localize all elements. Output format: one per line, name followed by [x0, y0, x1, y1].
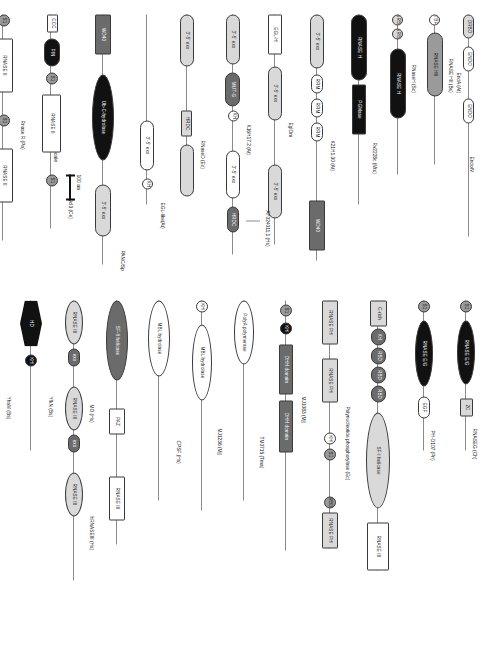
domain-rrm-3: RRM: [311, 122, 323, 141]
row-name-rnasehii: RNASE HII (Bs): [448, 58, 453, 92]
domain-rnase-ii-rnaser-1: RNASE II: [0, 38, 13, 92]
domain-35exo-k16-2: 3'-5' exo: [226, 150, 240, 198]
lane-mj1083: S1 KH DHH domain DHH domain MJ1083 (Mj): [276, 300, 296, 600]
domain-35exo-egl: 3'-5' exo: [140, 120, 154, 170]
row-name-k16h172: K16H17.2 (At): [246, 124, 251, 154]
domain-rbd-2: RBD: [371, 366, 386, 383]
domain-rnase-ii-dcl3: RNASE II: [42, 94, 61, 152]
domain-egf: EGF: [418, 396, 430, 418]
lane-rnaseg-ch: S1 RNASE E/G 2C RNASEG (Ch): [456, 300, 476, 530]
domain-rbd-3: RBD: [371, 385, 386, 402]
domain-polya-polymerase-tm: PolyA polymerase: [234, 300, 254, 364]
row-name-cpsf: CPSF (Hs): [176, 440, 181, 463]
row-name-rnaseg: RNASEG (Ch): [472, 428, 477, 459]
domain-s1-dcl3-2: S1: [46, 174, 58, 186]
domain-35exo-k21: 3'-5' exo: [310, 14, 324, 68]
row-name-tm0715: TM0715 (Tma): [259, 436, 264, 468]
row-name-rv2228c: Rv2228c (Mtu): [372, 142, 377, 173]
lane-k16h172: 3'-5' exo MUT-G KH 3'-5' exo HRDC K16H17…: [224, 14, 242, 264]
domain-mbl-hydrolase: MBL hydrolase: [192, 324, 212, 400]
domain-2c: 2C: [460, 398, 473, 416]
domain-rbd-pnpase: RBD: [324, 496, 336, 508]
domain-pin: PIN: [44, 38, 60, 66]
lane-mj1236: KH MBL hydrolase MJ1236 (Mj): [192, 300, 212, 600]
domain-kh-yfkn: KH: [25, 354, 37, 366]
row-name-panc: PANC/Sp: [120, 250, 125, 270]
domain-rnase-h: RNASE H: [390, 48, 406, 118]
lane-panc-sp: WD40 Ub-C-hydrolase 3'-5' exo PANC/Sp: [92, 14, 114, 294]
domain-wd40-panc: WD40: [95, 14, 111, 54]
row-name-pnpase: Polynucleotide phosphorylase (Ec): [345, 406, 350, 480]
domain-kh-mj1083: KH: [280, 322, 292, 334]
domain-s1-mj1083: S1: [280, 304, 292, 316]
domain-rnase-eg-pn: RNASE E/G: [415, 320, 433, 386]
lane-pnpase-ec: RNASE PH RNASE PH KH S1 RBD RNASE PH Pol…: [320, 300, 340, 600]
domain-mbl-hydrolase-cpsf: MBL hydrolase: [148, 300, 170, 376]
domain-c-rich: C-rich: [370, 300, 387, 326]
scale-bar-value: 100 aa: [76, 174, 82, 189]
domain-kh-egl: KH: [142, 178, 153, 189]
domain-ccc: CCC: [47, 14, 58, 32]
domain-kh-mj1236: KH: [196, 300, 208, 312]
domain-dsrbd-1: dsRBD: [393, 14, 404, 25]
domain-s1-dcl3-1: S1: [46, 72, 58, 84]
row-name-yfkn: YfkN (Bs): [48, 396, 53, 417]
domain-rnase-h-2: RNASE H: [351, 14, 367, 80]
lane-rnase-hii-bs: TBP RNASE HII RNASE HII (Bs): [427, 14, 443, 244]
domain-exo-mo-1: exo: [68, 348, 80, 366]
domain-rnaseiii-mo-3: RNASE III: [65, 472, 83, 516]
row-name-rnased: RNaseD (Ec): [200, 140, 205, 168]
lane-tm0715: PolyA polymerase TM0715 (Tma): [234, 300, 254, 600]
row-name-mj1236: MJ1236 (Mj): [217, 428, 222, 455]
scale-bar-line: [69, 174, 71, 200]
scale-bar-cap-left: [66, 174, 75, 176]
domain-rnase-ph-2: RNASE PH: [322, 358, 338, 402]
domain-exo-mo-2: exo: [68, 434, 80, 452]
lane-hrnaseiii: SF-II helicase PAZ RNASE III: [106, 300, 128, 600]
domain-35exo-eg-1: 3'-5' exo: [268, 66, 282, 120]
domain-rnase-hii: RNASE HII: [427, 32, 443, 96]
row-label-enda: EndoIV: [469, 156, 474, 172]
domain-rbd-1: RBD: [371, 347, 386, 364]
lane-phd107-pn: S1 RNASE E/G EGF PH-D107 (Pn): [414, 300, 434, 530]
lane-k21h130: 3'-5' exo RRM RRM RRM WD40 K21H1.30 (At): [308, 14, 326, 264]
domain-tbp: TBP: [430, 14, 441, 25]
domain-rnase-ph-1: RNASE PH: [322, 300, 338, 344]
domain-hd-yfkn: HD: [20, 300, 42, 346]
row-name-enda: EndA (At): [456, 72, 461, 93]
lane-cpsf-hs: MBL hydrolase CPSF (Hs): [148, 300, 170, 600]
row-name-k21h130: K21H1.30 (At): [330, 140, 335, 170]
domain-dsrbd-2: dsRBD: [393, 28, 404, 39]
row-name-rnaseh-sc: RNaseH (Sc): [411, 64, 416, 92]
domain-rnaseiii-mo-1: RNASE III: [65, 300, 83, 344]
domain-endo-1: ENDO: [464, 46, 475, 71]
domain-sfi-helicase: SF-I helicase: [366, 412, 390, 508]
domain-mut-g: MUT-G: [226, 72, 241, 106]
domain-35exo-eg-2: 3'-5' exo: [268, 164, 282, 218]
lane-rnaser-pa: S1 RNASE II S1 RNASE II Rnase R (Pa): [0, 14, 14, 294]
domain-kh-pnpase: KH: [324, 432, 336, 444]
domain-sfii-helicase: SF-II helicase: [106, 300, 128, 380]
domain-35exo-rnased-2: [180, 144, 194, 196]
domain-s1-rnaser-2: S1: [0, 114, 10, 126]
lane-rv2228c: RNASE H PGMase Rv2228c (Mtu): [350, 14, 368, 244]
domain-s1-phd107: S1: [418, 300, 430, 312]
lane-rnased-ec: 3'-5' exo HRDC RNaseD (Ec): [178, 14, 196, 264]
figure-page: Scale 100 aa DRBD ENDO ENDO EndoIV EndA …: [0, 0, 486, 657]
lane-mo-hs: RNASE III exo RNASE III exo RNASE III MO…: [64, 300, 84, 620]
domain-dhh-2: DHH domain: [279, 400, 293, 452]
domain-kh-k16: KH: [228, 110, 239, 121]
row-name-phd107: PH-D107 (Pn): [430, 430, 435, 460]
domain-kh-sfi: KH: [371, 328, 386, 345]
domain-rrm-2: RRM: [311, 98, 323, 117]
domain-rrm-1: RRM: [311, 74, 323, 93]
row-name-egl-like: EGL-like(At): [160, 202, 165, 228]
lane-yfkn-bs: HD KH YfkN (Bs): [20, 300, 42, 620]
domain-endo-2: ENDO: [464, 98, 475, 123]
domain-35exo-k16-1: 3'-5' exo: [226, 14, 240, 64]
domain-rnase-iii-sfi: RNASE III: [367, 522, 389, 570]
domain-rnase-ii-rnaser-2: RNASE II: [0, 148, 13, 202]
lane-enda-at: DRBD ENDO ENDO EndoIV EndA (At): [462, 14, 476, 244]
domain-wd40-1: WD40: [309, 200, 325, 250]
domain-35exo-panc: 3'-5' exo: [95, 184, 111, 236]
